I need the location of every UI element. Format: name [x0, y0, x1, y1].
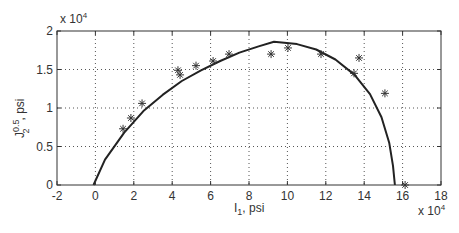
x-tick-label: 10 — [281, 189, 295, 203]
x-tick-label: 0 — [92, 189, 99, 203]
grid-lines — [57, 31, 441, 185]
data-point-marker — [317, 50, 325, 58]
y-axis-label: J0.52, psi — [11, 98, 31, 138]
x-tick-label: 12 — [319, 189, 333, 203]
x-tick-label: 2 — [130, 189, 137, 203]
x-tick-label: 4 — [169, 189, 176, 203]
data-point-marker — [284, 44, 292, 52]
y-tick-label: 0 — [46, 178, 53, 192]
data-point-marker — [138, 99, 146, 107]
x-exponent-label: x 104 — [418, 203, 446, 218]
data-point-marker — [192, 62, 200, 70]
y-tick-label: 0.5 — [36, 140, 53, 154]
data-point-marker — [225, 50, 233, 58]
data-point-marker — [355, 54, 363, 62]
chart: -2024681012141618 00.511.52 x 104 x 104 … — [0, 0, 459, 233]
x-tick-label: 16 — [396, 189, 410, 203]
fitted-curve — [94, 42, 395, 185]
x-tick-label: 6 — [207, 189, 214, 203]
data-point-marker — [176, 71, 184, 79]
y-tick-label: 1 — [46, 101, 53, 115]
y-tick-label: 1.5 — [36, 63, 53, 77]
y-tick-label: 2 — [46, 24, 53, 38]
x-tick-label: 18 — [434, 189, 448, 203]
x-tick-label: 14 — [358, 189, 372, 203]
data-points — [119, 44, 409, 189]
data-point-marker — [381, 89, 389, 97]
x-axis-ticks: -2024681012141618 — [52, 31, 448, 203]
data-point-marker — [350, 69, 358, 77]
x-axis-label: I1, psi — [234, 201, 264, 217]
data-point-marker — [267, 50, 275, 58]
data-point-marker — [119, 125, 127, 133]
y-exponent-label: x 104 — [60, 11, 88, 26]
x-tick-label: -2 — [52, 189, 63, 203]
